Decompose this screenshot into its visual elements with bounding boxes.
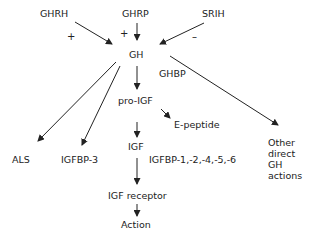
arrow-ghrh-gh: [75, 22, 112, 44]
node-ghrh: GHRH: [40, 8, 68, 19]
arrow-gh-als: [38, 62, 116, 141]
node-srih: SRIH: [202, 8, 225, 19]
node-als: ALS: [12, 154, 30, 165]
arrows-layer: [0, 0, 313, 239]
arrow-gh-other: [170, 56, 278, 125]
label-ghbp: GHBP: [159, 68, 186, 79]
sign-ghrp: +: [120, 29, 128, 39]
sign-ghrh: +: [67, 32, 75, 42]
node-ghrp: GHRP: [122, 8, 149, 19]
node-e-peptide: E-peptide: [174, 119, 220, 130]
arrow-srih-gh: [160, 23, 204, 44]
sign-srih: –: [192, 32, 197, 42]
node-igf-receptor: IGF receptor: [108, 190, 167, 201]
node-igfbp3: IGFBP-3: [61, 154, 98, 165]
arrow-proigf-epeptide: [161, 109, 170, 118]
node-igf: IGF: [128, 141, 144, 152]
node-action: Action: [121, 219, 151, 230]
node-other-gh-actions: Other direct GH actions: [268, 137, 312, 181]
node-gh: GH: [129, 49, 144, 60]
label-igfbp-others: IGFBP-1,-2,-4,-5,-6: [149, 154, 236, 165]
node-pro-igf: pro-IGF: [118, 95, 153, 106]
